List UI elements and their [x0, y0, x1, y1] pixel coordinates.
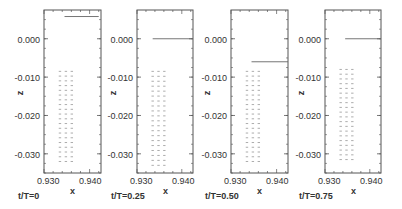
plot-frame — [44, 10, 101, 173]
plot-frame — [137, 10, 193, 173]
plot-frame — [325, 10, 381, 173]
plot-frame — [231, 10, 288, 173]
plot-area — [0, 0, 402, 209]
